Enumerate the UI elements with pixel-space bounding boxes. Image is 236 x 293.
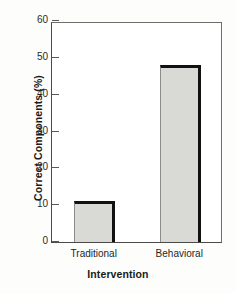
y-axis-tick: 10 [52,204,59,205]
plot-area: 0102030405060 [51,22,222,243]
y-axis-tick: 30 [52,131,59,132]
bar [74,201,115,242]
y-axis-tick: 40 [52,94,59,95]
y-axis-tick-label: 60 [37,14,48,25]
y-axis-tick-label: 10 [37,198,48,209]
y-axis-tick: 0 [52,241,59,242]
y-axis-tick-label: 40 [37,88,48,99]
y-axis-tick: 20 [52,167,59,168]
x-axis-tick-label: Behavioral [129,248,229,259]
y-axis-tick: 50 [52,57,59,58]
x-axis-title: Intervention [0,268,236,280]
bar-chart-figure: Correct Components (%) 0102030405060 Int… [0,0,236,293]
bar [160,65,201,242]
y-axis-tick-label: 0 [42,235,48,246]
y-axis-tick-label: 20 [37,161,48,172]
y-axis-tick-label: 30 [37,125,48,136]
y-axis-tick: 60 [52,20,59,21]
y-axis-tick-label: 50 [37,51,48,62]
